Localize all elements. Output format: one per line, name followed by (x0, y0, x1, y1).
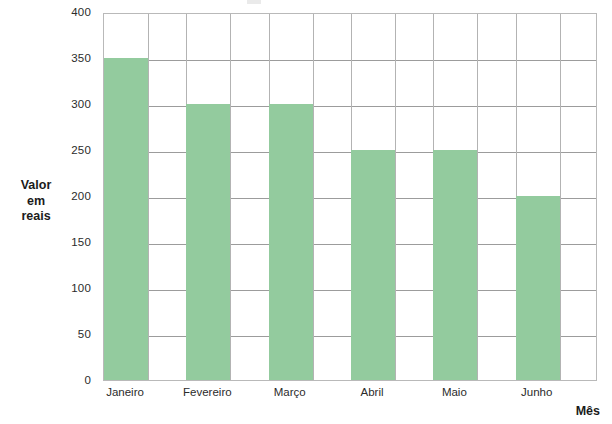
y-axis-title-line-3: reais (4, 209, 68, 225)
y-axis-tick-label: 150 (0, 236, 91, 248)
y-axis-tick-label: 250 (0, 144, 91, 156)
y-axis-tick-label: 300 (0, 98, 91, 110)
gridline-horizontal (104, 152, 596, 153)
y-axis-tick-label: 100 (0, 282, 91, 294)
y-axis-tick-label: 0 (0, 374, 91, 386)
y-axis-tick-label: 350 (0, 52, 91, 64)
gridline-vertical (395, 14, 396, 380)
y-axis-title-line-2: em (4, 194, 68, 210)
bar-junho (516, 196, 560, 380)
plot-area (103, 13, 597, 381)
y-axis-title: Valor em reais (4, 178, 68, 225)
bar-março (269, 104, 313, 380)
gridline-vertical (477, 14, 478, 380)
y-axis-title-line-1: Valor (4, 178, 68, 194)
x-axis-title: Mês (576, 404, 600, 418)
gridline-vertical (148, 14, 149, 380)
gridline-horizontal (104, 60, 596, 61)
gridline-vertical (230, 14, 231, 380)
scan-artifact (247, 0, 261, 4)
x-axis-tick-label: Junho (487, 386, 587, 398)
bar-abril (351, 150, 395, 380)
bar-chart-figure: 050100150200250300350400 Valor em reais … (0, 0, 612, 424)
bar-janeiro (104, 58, 148, 380)
y-axis-tick-label: 50 (0, 328, 91, 340)
gridline-horizontal (104, 106, 596, 107)
y-axis-tick-label: 400 (0, 6, 91, 18)
gridline-vertical (560, 14, 561, 380)
bar-maio (433, 150, 477, 380)
x-axis-tick-labels: JaneiroFevereiroMarçoAbrilMaioJunho (103, 386, 597, 404)
bar-fevereiro (186, 104, 230, 380)
gridline-vertical (313, 14, 314, 380)
